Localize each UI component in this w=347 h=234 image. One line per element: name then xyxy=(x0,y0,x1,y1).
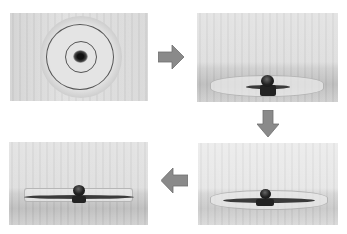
panel-side-view-early xyxy=(197,13,338,102)
droplet xyxy=(261,75,274,87)
photo-texture xyxy=(9,142,148,225)
droplet xyxy=(73,185,85,196)
central-droplet xyxy=(73,50,88,63)
arrow-left-icon xyxy=(161,168,188,193)
panel-top-view xyxy=(10,13,148,101)
arrow-down-icon xyxy=(257,110,279,137)
panel-side-view-wide xyxy=(198,143,338,225)
photo-texture xyxy=(198,143,338,225)
droplet-base xyxy=(72,196,86,203)
droplet xyxy=(260,189,271,199)
droplet-base xyxy=(256,199,274,206)
arrow-right-icon xyxy=(158,45,184,69)
panel-side-view-spread xyxy=(9,142,148,225)
